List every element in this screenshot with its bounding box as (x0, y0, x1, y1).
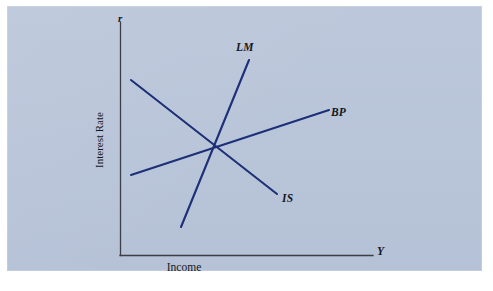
x-axis-variable-label: Y (377, 245, 384, 257)
figure-root: LM BP IS r Y Income Interest Rate (0, 0, 493, 291)
y-axis-title: Interest Rate (93, 112, 105, 168)
x-axis-title: Income (0, 261, 493, 273)
is-curve-label: IS (282, 192, 293, 204)
y-axis-variable-label: r (118, 12, 122, 24)
lm-curve-label: LM (236, 41, 254, 53)
bp-curve-label: BP (331, 106, 346, 118)
